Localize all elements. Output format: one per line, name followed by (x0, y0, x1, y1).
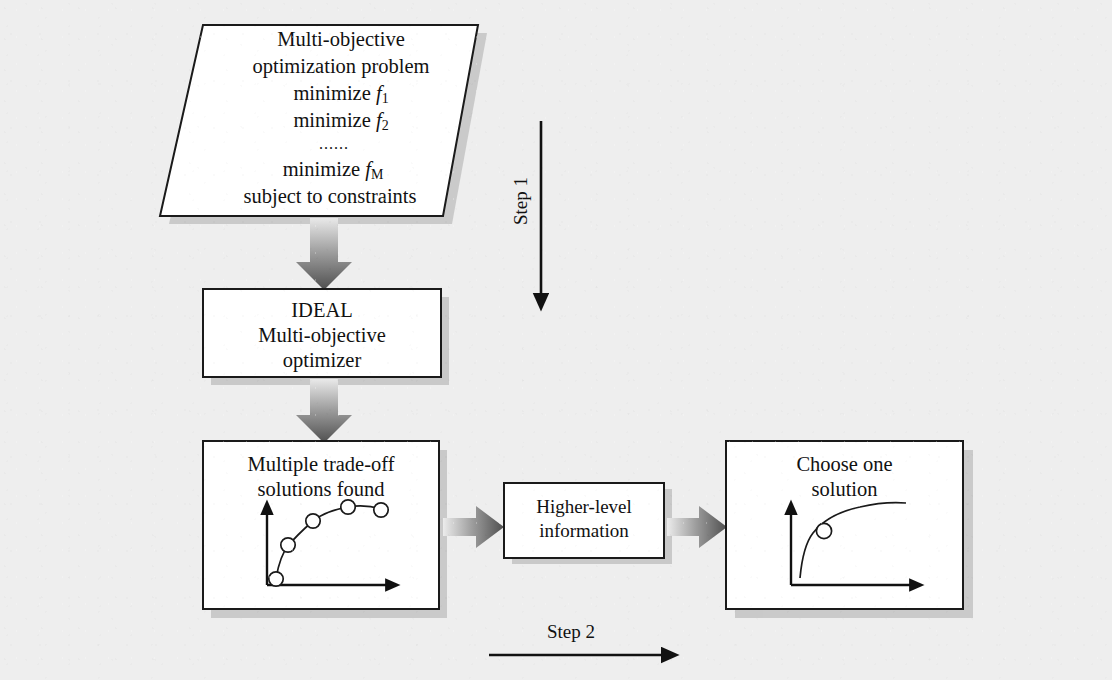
problem-line-3: minimize f1 (186, 81, 496, 108)
choose-line-2: solution (726, 477, 963, 501)
arrow-optimizer-to-tradeoff (296, 379, 352, 443)
tradeoff-line-2: solutions found (203, 477, 439, 501)
arrow-tradeoff-to-higherlevel (443, 506, 504, 548)
problem-line-3-prefix: minimize (293, 82, 376, 104)
diagram-canvas: Multi-objective optimization problem min… (0, 0, 1112, 680)
tradeoff-line-1: Multiple trade-off (203, 452, 439, 476)
optimizer-line-3: optimizer (203, 348, 441, 372)
diagram-vector-layer (0, 0, 1112, 680)
problem-line-3-sub: 1 (382, 91, 389, 106)
arrow-higherlevel-to-choose (667, 506, 727, 548)
higher-level-line-1: Higher-level (504, 496, 664, 518)
problem-line-7: subject to constraints (164, 184, 496, 208)
step1-label: Step 1 (510, 161, 532, 241)
problem-line-4: minimize f2 (186, 108, 496, 135)
problem-line-1: Multi-objective (186, 27, 496, 51)
optimizer-line-2: Multi-objective (203, 323, 441, 347)
arrow-problem-to-optimizer (296, 218, 352, 290)
choose-line-1: Choose one (726, 452, 963, 476)
step2-label: Step 2 (547, 621, 595, 643)
higher-level-line-2: information (504, 520, 664, 542)
problem-line-4-prefix: minimize (293, 109, 376, 131)
problem-line-6: minimize fM (170, 157, 496, 184)
problem-line-6-prefix: minimize (283, 158, 366, 180)
problem-line-4-sub: 2 (382, 118, 389, 133)
choose-chart-selected-point (816, 523, 831, 538)
optimizer-line-1: IDEAL (203, 298, 441, 322)
problem-line-6-sub: M (371, 167, 383, 182)
problem-ellipsis: ...... (172, 135, 496, 154)
problem-line-2: optimization problem (186, 54, 496, 78)
